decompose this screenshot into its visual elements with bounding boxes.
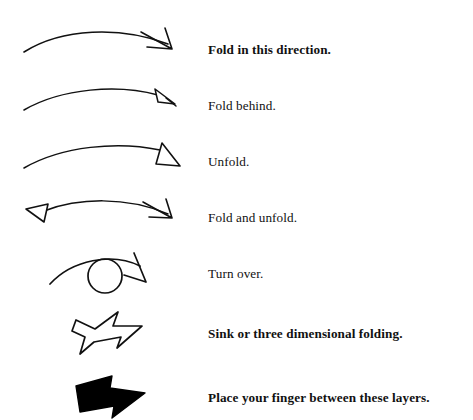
label-cell: Place your finger between these layers. — [208, 368, 430, 420]
legend-label: Sink or three dimensional folding. — [208, 326, 403, 342]
legend-label: Fold behind. — [208, 98, 276, 114]
label-cell: Fold in this direction. — [208, 20, 331, 80]
legend-row: Sink or three dimensional folding. — [0, 304, 473, 364]
label-cell: Turn over. — [208, 244, 263, 304]
legend-row: Turn over. — [0, 244, 473, 304]
symbol-unfold — [0, 132, 200, 192]
label-cell: Fold and unfold. — [208, 188, 297, 248]
symbol-fold-and-unfold — [0, 188, 200, 248]
label-cell: Sink or three dimensional folding. — [208, 304, 403, 364]
label-cell: Fold behind. — [208, 76, 276, 136]
legend-label: Fold in this direction. — [208, 42, 331, 58]
hollow-block-arrow-icon — [72, 312, 142, 354]
solid-block-arrow-icon — [76, 376, 145, 418]
open-arrowhead-icon — [124, 253, 146, 282]
symbol-fold-in-this-direction — [0, 20, 200, 80]
legend-row: Fold and unfold. — [0, 188, 473, 248]
hollow-triangle-arrowhead-icon — [155, 89, 175, 104]
legend-label: Place your finger between these layers. — [208, 390, 430, 406]
arc-stroke — [44, 201, 168, 214]
label-cell: Unfold. — [208, 132, 249, 192]
arc-stroke — [24, 89, 158, 110]
symbol-fold-behind — [0, 76, 200, 136]
legend-row: Unfold. — [0, 132, 473, 192]
symbol-place-your-finger-between-these-layers — [0, 368, 200, 420]
hollow-triangle-arrowhead-icon — [156, 143, 180, 166]
arc-stroke — [24, 146, 160, 168]
legend-label: Unfold. — [208, 154, 249, 170]
open-arrowhead-icon — [143, 199, 172, 218]
symbol-turn-over — [0, 244, 200, 304]
origami-symbol-legend: Fold in this direction. Fold behind. Unf… — [0, 0, 473, 420]
legend-label: Fold and unfold. — [208, 210, 297, 226]
turn-over-circle-icon — [88, 259, 122, 293]
hollow-triangle-arrowhead-icon — [26, 204, 48, 222]
symbol-sink-or-three-dimensional-folding — [0, 304, 200, 364]
open-arrowhead-icon — [141, 28, 172, 49]
legend-row: Fold behind. — [0, 76, 473, 136]
legend-row: Place your finger between these layers. — [0, 368, 473, 420]
legend-row: Fold in this direction. — [0, 20, 473, 80]
legend-label: Turn over. — [208, 266, 263, 282]
